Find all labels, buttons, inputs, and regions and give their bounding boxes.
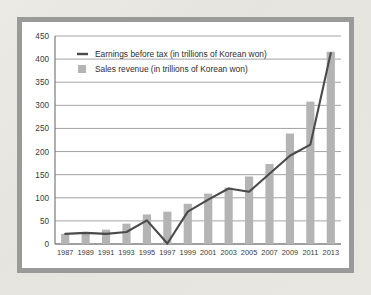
bar-2005 — [245, 177, 253, 244]
y-tick-label-300: 300 — [35, 101, 49, 110]
x-tick-label-1987: 1987 — [57, 248, 73, 257]
bar-1991 — [102, 230, 110, 244]
sales-earnings-chart: 0501001502002503003504004501987198919911… — [22, 22, 349, 268]
y-tick-label-100: 100 — [35, 194, 49, 203]
y-tick-label-250: 250 — [35, 124, 49, 133]
x-tick-labels: 1987198919911993199519971999200120032005… — [57, 248, 339, 257]
y-tick-label-150: 150 — [35, 171, 49, 180]
bar-1995 — [143, 214, 151, 244]
chart-frame: 0501001502002503003504004501987198919911… — [17, 17, 354, 273]
x-tick-label-1989: 1989 — [77, 248, 93, 257]
x-tick-label-1991: 1991 — [98, 248, 114, 257]
bar-2011 — [306, 102, 314, 244]
x-tick-label-1999: 1999 — [180, 248, 196, 257]
bar-2003 — [225, 188, 233, 244]
x-tick-label-2007: 2007 — [261, 248, 277, 257]
bar-series — [61, 52, 335, 244]
x-tick-label-1993: 1993 — [118, 248, 134, 257]
x-tick-label-1997: 1997 — [159, 248, 175, 257]
legend-label-0: Earnings before tax (in trillions of Kor… — [95, 49, 267, 59]
y-tick-label-200: 200 — [35, 148, 49, 157]
x-tick-label-2005: 2005 — [241, 248, 257, 257]
plot-area: 0501001502002503003504004501987198919911… — [22, 22, 349, 268]
x-tick-label-1995: 1995 — [139, 248, 155, 257]
x-tick-label-2009: 2009 — [282, 248, 298, 257]
chart-legend: Earnings before tax (in trillions of Kor… — [77, 49, 267, 74]
y-tick-label-450: 450 — [35, 32, 49, 41]
bar-2009 — [286, 134, 294, 244]
bar-1987 — [61, 234, 69, 244]
bar-2013 — [327, 52, 335, 244]
y-tick-label-0: 0 — [44, 240, 49, 249]
x-tick-label-2013: 2013 — [323, 248, 339, 257]
legend-label-1: Sales revenue (in trillions of Korean wo… — [95, 64, 248, 74]
x-tick-label-2001: 2001 — [200, 248, 216, 257]
y-tick-label-400: 400 — [35, 55, 49, 64]
x-tick-label-2011: 2011 — [302, 248, 318, 257]
chart-page: 0501001502002503003504004501987198919911… — [0, 0, 371, 295]
x-tick-label-2003: 2003 — [220, 248, 236, 257]
y-tick-label-50: 50 — [40, 217, 50, 226]
bar-1993 — [122, 224, 130, 244]
legend-marker-square — [78, 65, 86, 73]
y-tick-label-350: 350 — [35, 78, 49, 87]
